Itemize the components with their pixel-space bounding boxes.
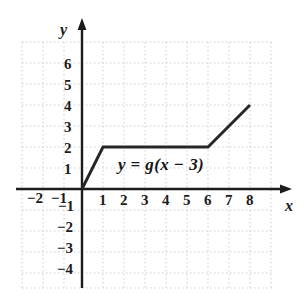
x-tick-label-2: 2 (120, 193, 128, 208)
y-tick-label--3: −3 (57, 241, 73, 256)
y-axis-arrow (78, 18, 87, 30)
x-tick-label--2: −2 (27, 191, 43, 206)
x-axis-arrow (280, 185, 292, 194)
x-tick-label-8: 8 (246, 193, 254, 208)
y-tick-label--4: −4 (57, 262, 73, 277)
function-equation-label: y = g(x − 3) (118, 155, 204, 175)
x-axis-label: x (285, 198, 293, 214)
y-tick-label-5: 5 (64, 78, 72, 93)
x-tick-label-4: 4 (162, 193, 170, 208)
y-tick-label--1: −1 (58, 199, 74, 214)
graph-figure: y x −2 −1 1 2 3 4 5 6 7 8 6 5 4 3 2 1 −1… (0, 0, 306, 301)
y-tick-label-6: 6 (64, 57, 72, 72)
function-curve (82, 105, 250, 189)
y-tick-label-3: 3 (64, 120, 72, 135)
x-tick-label-3: 3 (141, 193, 149, 208)
x-tick-label-5: 5 (183, 193, 191, 208)
x-tick-label-7: 7 (225, 193, 233, 208)
x-tick-label-1: 1 (99, 193, 107, 208)
y-tick-label-4: 4 (64, 99, 72, 114)
y-tick-label-1: 1 (64, 162, 72, 177)
coordinate-plot (0, 0, 306, 301)
x-tick-label-6: 6 (204, 193, 212, 208)
y-tick-label--2: −2 (57, 220, 73, 235)
y-tick-label-2: 2 (64, 141, 72, 156)
y-axis-label: y (60, 22, 67, 38)
